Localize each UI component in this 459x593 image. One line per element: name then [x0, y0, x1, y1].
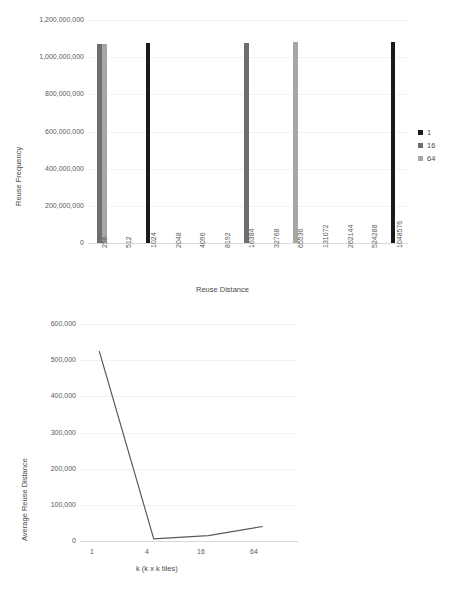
x-tick-label: 1048576	[396, 221, 404, 248]
x-tick-label: 16384	[248, 229, 256, 248]
chart-avg-reuse-distance: Average Reuse Distance 600,000 500,000 4…	[0, 296, 459, 593]
y-tick-label: 400,000	[32, 392, 76, 400]
x-tick-label: 1024	[150, 232, 158, 248]
legend-swatch-icon	[418, 143, 423, 148]
legend-swatch-icon	[418, 156, 423, 161]
y-tick-label: 0	[32, 537, 76, 545]
y-tick-label: 1,200,000,000	[18, 16, 84, 24]
x-tick-label: 512	[125, 236, 133, 248]
x-tick-label: 1	[90, 548, 94, 556]
legend-label: 16	[427, 142, 435, 150]
y-axis-title-average-reuse-distance: Average Reuse Distance	[20, 458, 29, 541]
line-series-avg-reuse-distance	[80, 324, 298, 541]
y-tick-label: 600,000	[32, 320, 76, 328]
legend-reuse-frequency: 1 16 64	[418, 126, 435, 165]
x-tick-label: 8192	[224, 232, 232, 248]
legend-label: 64	[427, 155, 435, 163]
y-tick-label: 500,000	[32, 356, 76, 364]
legend-item-64: 64	[418, 152, 435, 165]
x-tick-label: 131072	[322, 225, 330, 248]
y-axis-title-reuse-frequency: Reuse Frequency	[14, 147, 23, 206]
x-axis-line	[80, 541, 298, 542]
x-tick-label: 32768	[273, 229, 281, 248]
legend-label: 1	[427, 129, 431, 137]
x-tick-label: 524288	[371, 225, 379, 248]
x-tick-label: 256	[101, 236, 109, 248]
x-tick-label: 262144	[347, 225, 355, 248]
plot-area-reuse-frequency	[88, 20, 408, 243]
legend-item-16: 16	[418, 139, 435, 152]
bar-65536-series64	[293, 42, 298, 243]
x-tick-label: 16	[197, 548, 205, 556]
plot-area-average-reuse-distance	[80, 324, 298, 541]
y-tick-label: 100,000	[32, 501, 76, 509]
bar-16384-series16	[244, 43, 249, 243]
x-tick-label: 65536	[297, 229, 305, 248]
x-tick-label: 4	[145, 548, 149, 556]
y-tick-label: 1,000,000,000	[18, 53, 84, 61]
legend-item-1: 1	[418, 126, 435, 139]
x-axis-title-k-tiles: k (k x k tiles)	[136, 564, 178, 573]
y-tick-label: 600,000,000	[18, 128, 84, 136]
bar-256-series64	[102, 44, 107, 243]
bar-1024-series1	[146, 43, 150, 243]
y-tick-label: 400,000,000	[18, 165, 84, 173]
y-tick-label: 800,000,000	[18, 90, 84, 98]
legend-swatch-icon	[418, 130, 423, 135]
y-tick-label: 200,000,000	[18, 202, 84, 210]
chart-reuse-frequency: Reuse Frequency 1,200,000,000 1,000,000,…	[0, 0, 459, 296]
x-tick-label: 64	[250, 548, 258, 556]
y-tick-label: 300,000	[32, 429, 76, 437]
x-tick-label: 4096	[199, 232, 207, 248]
y-tick-label: 0	[18, 239, 84, 247]
x-axis-title-reuse-distance: Reuse Distance	[196, 285, 249, 294]
gridline	[88, 20, 408, 21]
x-tick-label: 2048	[175, 232, 183, 248]
y-tick-label: 200,000	[32, 465, 76, 473]
bar-1048576-series1	[391, 42, 395, 243]
